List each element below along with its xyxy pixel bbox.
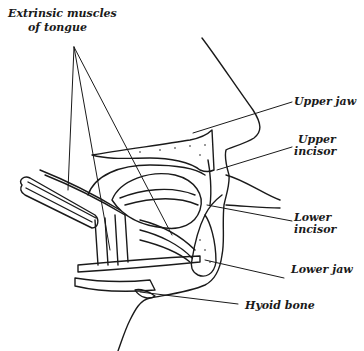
leader-extrinsic-3 xyxy=(74,47,172,235)
leader-upper-incisor xyxy=(217,147,292,170)
upper-incisor xyxy=(208,160,211,205)
label-lower-incisor: Lower xyxy=(294,212,331,223)
leader-lower-jaw xyxy=(205,260,284,278)
label-upper-jaw: Upper jaw xyxy=(294,96,356,107)
label-lower-jaw: Lower jaw xyxy=(291,264,353,275)
label-extrinsic-muscles-line2: of tongue xyxy=(28,22,87,33)
label-hyoid-bone: Hyoid bone xyxy=(245,300,315,311)
label-extrinsic-muscles: Extrinsic muscles xyxy=(8,8,117,19)
label-lower-incisor-line2: incisor xyxy=(294,224,336,235)
lower-jaw-bone xyxy=(191,215,216,276)
leader-upper-jaw xyxy=(193,102,292,133)
leader-hyoid xyxy=(140,292,238,304)
label-upper-incisor-line2: incisor xyxy=(294,146,336,157)
leader-extrinsic-2 xyxy=(74,47,110,250)
face-profile xyxy=(118,38,260,351)
label-upper-incisor: Upper xyxy=(298,134,336,145)
leader-extrinsic-1 xyxy=(68,47,74,190)
geniohyoid xyxy=(78,256,200,272)
